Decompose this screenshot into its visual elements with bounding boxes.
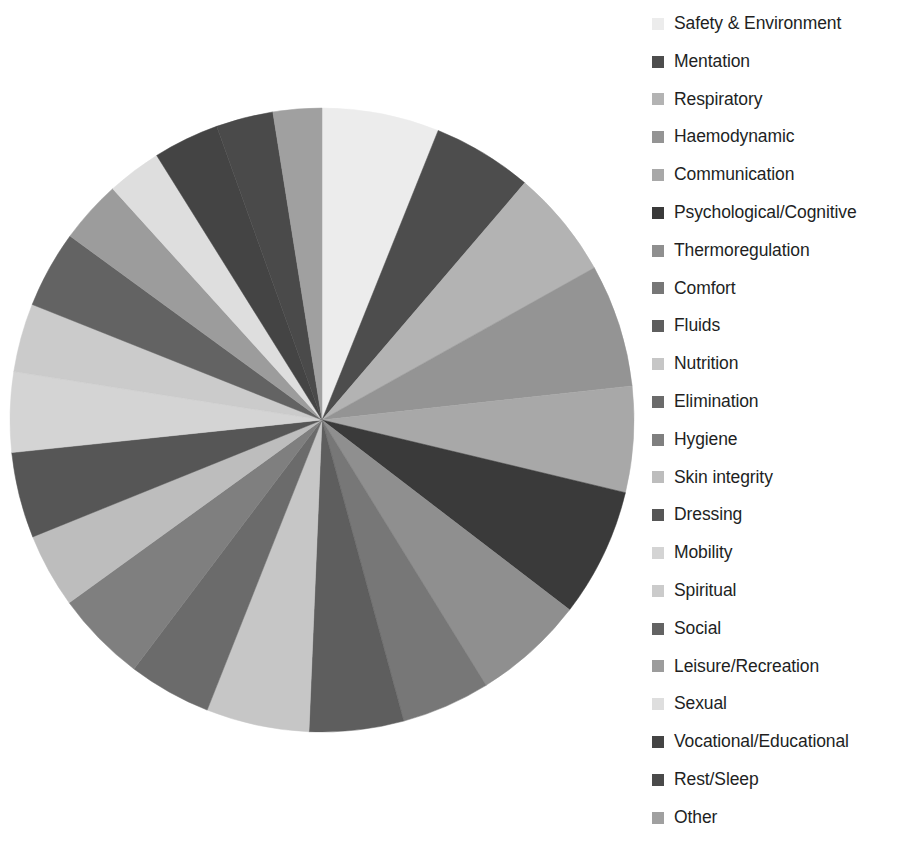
legend-swatch-icon <box>652 509 664 521</box>
legend-item[interactable]: Mentation <box>652 43 917 81</box>
legend-item[interactable]: Nutrition <box>652 345 917 383</box>
legend-swatch-icon <box>652 547 664 559</box>
legend-item-label: Spiritual <box>674 572 736 610</box>
legend-swatch-icon <box>652 585 664 597</box>
legend-item-label: Haemodynamic <box>674 118 794 156</box>
legend-item-label: Safety & Environment <box>674 5 841 43</box>
legend-swatch-icon <box>652 471 664 483</box>
legend-item-label: Mentation <box>674 43 750 81</box>
legend-swatch-icon <box>652 660 664 672</box>
legend-item[interactable]: Hygiene <box>652 421 917 459</box>
legend-swatch-icon <box>652 774 664 786</box>
legend-swatch-icon <box>652 812 664 824</box>
legend-swatch-icon <box>652 358 664 370</box>
legend-swatch-icon <box>652 736 664 748</box>
legend-item-label: Communication <box>674 156 794 194</box>
legend-item-label: Hygiene <box>674 421 738 459</box>
legend-item-label: Fluids <box>674 307 720 345</box>
legend-item-label: Vocational/Educational <box>674 723 849 761</box>
legend-swatch-icon <box>652 396 664 408</box>
legend-item[interactable]: Sexual <box>652 685 917 723</box>
pie-chart-svg <box>0 0 648 848</box>
legend-item[interactable]: Thermoregulation <box>652 232 917 270</box>
legend-swatch-icon <box>652 320 664 332</box>
legend-item-label: Other <box>674 799 717 837</box>
legend-item-label: Comfort <box>674 270 736 308</box>
legend-item[interactable]: Elimination <box>652 383 917 421</box>
legend-item-label: Leisure/Recreation <box>674 648 819 686</box>
legend-item[interactable]: Leisure/Recreation <box>652 648 917 686</box>
legend-swatch-icon <box>652 282 664 294</box>
legend-item[interactable]: Comfort <box>652 270 917 308</box>
legend-item[interactable]: Communication <box>652 156 917 194</box>
pie-chart-area <box>0 0 648 848</box>
legend-item-label: Rest/Sleep <box>674 761 759 799</box>
legend-item-label: Skin integrity <box>674 459 773 497</box>
legend-item[interactable]: Vocational/Educational <box>652 723 917 761</box>
legend-item-label: Sexual <box>674 685 727 723</box>
chart-page: Safety & EnvironmentMentationRespiratory… <box>0 0 917 848</box>
legend-item[interactable]: Dressing <box>652 496 917 534</box>
legend-item[interactable]: Haemodynamic <box>652 118 917 156</box>
legend-item[interactable]: Respiratory <box>652 81 917 119</box>
legend-item-label: Thermoregulation <box>674 232 810 270</box>
legend-item[interactable]: Rest/Sleep <box>652 761 917 799</box>
legend-item-label: Nutrition <box>674 345 738 383</box>
legend-item[interactable]: Psychological/Cognitive <box>652 194 917 232</box>
legend-item-label: Social <box>674 610 721 648</box>
legend-swatch-icon <box>652 93 664 105</box>
legend-item[interactable]: Spiritual <box>652 572 917 610</box>
legend-item-label: Respiratory <box>674 81 762 119</box>
legend-swatch-icon <box>652 169 664 181</box>
legend-swatch-icon <box>652 434 664 446</box>
legend-swatch-icon <box>652 623 664 635</box>
pie-slice-group <box>10 108 634 732</box>
legend-item-label: Dressing <box>674 496 742 534</box>
legend-swatch-icon <box>652 56 664 68</box>
legend-swatch-icon <box>652 18 664 30</box>
chart-legend: Safety & EnvironmentMentationRespiratory… <box>652 0 917 848</box>
legend-swatch-icon <box>652 207 664 219</box>
legend-item[interactable]: Skin integrity <box>652 459 917 497</box>
legend-item-label: Mobility <box>674 534 733 572</box>
legend-item-label: Psychological/Cognitive <box>674 194 857 232</box>
legend-item[interactable]: Safety & Environment <box>652 5 917 43</box>
legend-item[interactable]: Other <box>652 799 917 837</box>
legend-item-label: Elimination <box>674 383 759 421</box>
legend-swatch-icon <box>652 245 664 257</box>
legend-swatch-icon <box>652 698 664 710</box>
legend-swatch-icon <box>652 131 664 143</box>
legend-item[interactable]: Social <box>652 610 917 648</box>
legend-item[interactable]: Fluids <box>652 307 917 345</box>
legend-item[interactable]: Mobility <box>652 534 917 572</box>
